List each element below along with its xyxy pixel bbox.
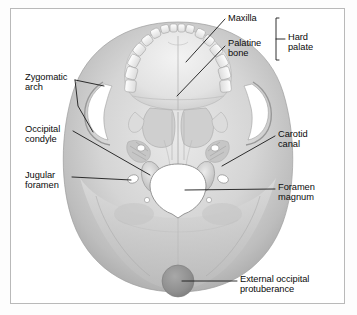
label-jugular-foramen: Jugular foramen — [25, 170, 59, 191]
hard-palate-bracket — [276, 18, 285, 60]
skull-base-figure: Maxilla Palatine bone Hard palate Zygoma… — [0, 0, 357, 315]
hard-palate-surface — [125, 30, 232, 110]
carotid-canal-left — [137, 145, 145, 151]
carotid-canal-right — [211, 145, 219, 151]
label-carotid-canal: Carotid canal — [278, 129, 308, 150]
label-foramen-magnum: Foramen magnum — [278, 182, 315, 203]
label-external-occipital-protuberance: External occipital protuberance — [240, 274, 309, 295]
label-zygomatic-arch: Zygomatic arch — [25, 72, 67, 93]
label-occipital-condyle: Occipital condyle — [25, 124, 60, 145]
label-palatine-bone: Palatine bone — [228, 38, 261, 59]
label-hard-palate: Hard palate — [288, 32, 313, 53]
label-maxilla: Maxilla — [228, 13, 257, 23]
